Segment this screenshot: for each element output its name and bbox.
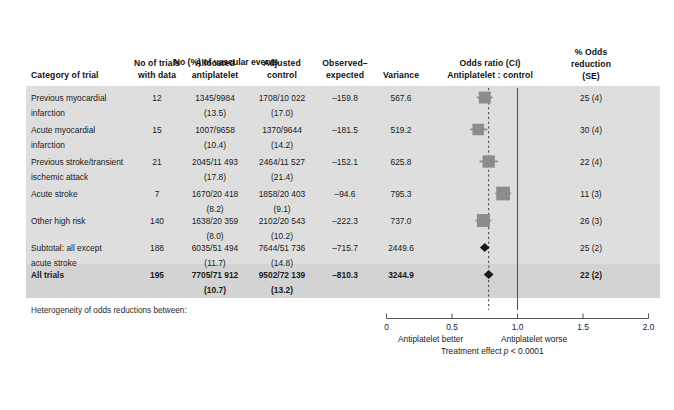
adjusted-cell: 1370/9644 [249, 125, 315, 136]
category-cell-line2: infarction [31, 140, 135, 151]
category-cell: Acute stroke [31, 189, 135, 200]
allocated-percent-cell: (8.2) [182, 204, 248, 215]
header-observed-line2: expected [316, 70, 374, 82]
variance-cell: 3244.9 [374, 270, 428, 281]
allocated-percent-cell: (10.4) [182, 140, 248, 151]
no-of-trials-cell: 21 [133, 157, 181, 168]
allocated-cell: 2045/11 493 [182, 157, 248, 168]
header-odds-ratio-line2: Antiplatelet : control [415, 70, 565, 82]
forest-plot-figure: No (%) of vascular events Category of tr… [0, 0, 674, 410]
header-allocated-line2: antiplatelet [182, 70, 248, 82]
category-cell: Acute myocardial [31, 125, 135, 136]
x-axis-tick-label: 1.5 [570, 322, 596, 332]
odds-reduction-cell: 22 (4) [556, 157, 626, 168]
allocated-percent-cell: (8.0) [182, 231, 248, 242]
category-cell: Other high risk [31, 216, 135, 227]
no-of-trials-cell: 12 [133, 93, 181, 104]
odds-reduction-cell: 30 (4) [556, 125, 626, 136]
variance-cell: 737.0 [374, 216, 428, 227]
adjusted-cell: 7644/51 736 [249, 243, 315, 254]
axis-label-antiplatelet-better: Antiplatelet better [398, 334, 463, 344]
adjusted-percent-cell: (21.4) [249, 172, 315, 183]
header-odds-reduction-line3: (SE) [556, 71, 626, 83]
no-of-trials-cell: 7 [133, 189, 181, 200]
header-category-of-trial: Category of trial [31, 70, 135, 82]
allocated-percent-cell: (17.8) [182, 172, 248, 183]
header-adjusted-line2: control [249, 70, 315, 82]
allocated-cell: 1638/20 359 [182, 216, 248, 227]
no-of-trials-cell: 15 [133, 125, 181, 136]
header-observed-line1: Observed– [316, 58, 374, 70]
header-no-of-trials-line1: No of trials [133, 58, 181, 70]
category-cell-line2: acute stroke [31, 258, 135, 269]
header-odds-reduction-line1: % Odds [556, 47, 626, 59]
adjusted-cell: 1708/10 022 [249, 93, 315, 104]
header-no-of-trials-line2: with data [133, 70, 181, 82]
allocated-percent-cell: (13.5) [182, 108, 248, 119]
odds-reduction-cell: 25 (2) [556, 243, 626, 254]
header-odds-ratio-line1: Odds ratio (CI) [423, 58, 557, 70]
x-axis-tick-label: 0.5 [439, 322, 465, 332]
observed-expected-cell: –94.6 [316, 189, 374, 200]
allocated-percent-cell: (11.7) [182, 258, 248, 269]
odds-reduction-cell: 11 (3) [556, 189, 626, 200]
observed-expected-cell: –222.3 [316, 216, 374, 227]
adjusted-percent-cell: (9.1) [249, 204, 315, 215]
adjusted-cell: 2464/11 527 [249, 157, 315, 168]
axis-label-antiplatelet-worse: Antiplatelet worse [501, 334, 567, 344]
category-cell-line2: ischemic attack [31, 172, 135, 183]
adjusted-percent-cell: (14.8) [249, 258, 315, 269]
no-of-trials-cell: 188 [133, 243, 181, 254]
x-axis-tick-label: 0 [374, 322, 400, 332]
no-of-trials-cell: 140 [133, 216, 181, 227]
allocated-cell: 1345/9984 [182, 93, 248, 104]
variance-cell: 567.6 [374, 93, 428, 104]
odds-reduction-cell: 22 (2) [556, 270, 626, 281]
header-odds-reduction-line2: reduction [556, 59, 626, 71]
allocated-cell: 1670/20 418 [182, 189, 248, 200]
category-cell: All trials [31, 270, 135, 281]
no-of-trials-cell: 195 [133, 270, 181, 281]
category-cell: Subtotal: all except [31, 243, 135, 254]
adjusted-percent-cell: (10.2) [249, 231, 315, 242]
allocated-cell: 7705/71 912 [182, 270, 248, 281]
adjusted-cell: 9502/72 139 [249, 270, 315, 281]
x-axis-tick-label: 2.0 [636, 322, 662, 332]
category-cell: Previous myocardial [31, 93, 135, 104]
observed-expected-cell: –159.8 [316, 93, 374, 104]
adjusted-percent-cell: (17.0) [249, 108, 315, 119]
category-cell: Previous stroke/transient [31, 157, 135, 168]
variance-cell: 519.2 [374, 125, 428, 136]
adjusted-cell: 2102/20 543 [249, 216, 315, 227]
observed-expected-cell: –181.5 [316, 125, 374, 136]
observed-expected-cell: –810.3 [316, 270, 374, 281]
allocated-percent-cell: (10.7) [182, 285, 248, 296]
treatment-effect-p-value: Treatment effect p < 0.0001 [441, 346, 544, 356]
odds-reduction-cell: 26 (3) [556, 216, 626, 227]
allocated-cell: 1007/9658 [182, 125, 248, 136]
adjusted-cell: 1858/20 403 [249, 189, 315, 200]
adjusted-percent-cell: (14.2) [249, 140, 315, 151]
observed-expected-cell: –715.7 [316, 243, 374, 254]
allocated-cell: 6035/51 494 [182, 243, 248, 254]
variance-cell: 2449.6 [374, 243, 428, 254]
header-adjusted-line1: Adjusted [249, 58, 315, 70]
variance-cell: 795.3 [374, 189, 428, 200]
header-allocated-line1: Allocated [182, 58, 248, 70]
observed-expected-cell: –152.1 [316, 157, 374, 168]
adjusted-percent-cell: (13.2) [249, 285, 315, 296]
variance-cell: 625.8 [374, 157, 428, 168]
odds-reduction-cell: 25 (4) [556, 93, 626, 104]
heterogeneity-footnote: Heterogeneity of odds reductions between… [31, 306, 187, 315]
category-cell-line2: infarction [31, 108, 135, 119]
x-axis-tick-label: 1.0 [505, 322, 531, 332]
